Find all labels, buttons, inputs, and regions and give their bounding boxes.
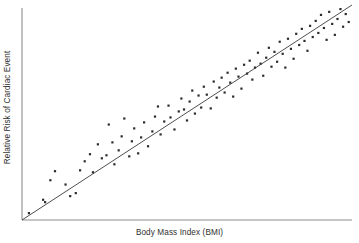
data-point bbox=[97, 143, 99, 145]
data-point bbox=[328, 11, 330, 13]
data-point bbox=[143, 121, 145, 123]
data-point bbox=[290, 48, 292, 50]
data-point bbox=[342, 26, 344, 28]
data-point bbox=[169, 116, 171, 118]
scatter-plot-figure: Relative Risk of Cardiac Event Body Mass… bbox=[0, 0, 359, 243]
data-point bbox=[206, 94, 208, 96]
data-point bbox=[54, 170, 56, 172]
data-point bbox=[331, 23, 333, 25]
data-point bbox=[89, 153, 91, 155]
data-point bbox=[243, 64, 245, 66]
data-point bbox=[173, 128, 175, 130]
data-point bbox=[265, 57, 267, 59]
data-point bbox=[301, 28, 303, 30]
data-point bbox=[317, 32, 319, 34]
data-point bbox=[224, 91, 226, 93]
data-point bbox=[309, 25, 311, 27]
data-point bbox=[197, 94, 199, 96]
trend-line bbox=[22, 5, 352, 220]
data-point bbox=[312, 36, 314, 38]
data-point bbox=[218, 86, 220, 88]
data-point bbox=[210, 107, 212, 109]
data-point bbox=[303, 40, 305, 42]
data-point bbox=[167, 105, 169, 107]
data-point bbox=[249, 60, 251, 62]
data-point bbox=[160, 133, 162, 135]
data-point bbox=[203, 86, 205, 88]
data-point bbox=[232, 95, 234, 97]
data-point bbox=[42, 199, 44, 201]
plot-canvas bbox=[0, 0, 359, 243]
data-point bbox=[128, 155, 130, 157]
data-point bbox=[276, 61, 278, 63]
data-point bbox=[49, 179, 51, 181]
data-point bbox=[154, 115, 156, 117]
data-point bbox=[315, 20, 317, 22]
data-point bbox=[121, 135, 123, 137]
data-point bbox=[64, 183, 66, 185]
data-point bbox=[273, 51, 275, 53]
data-point bbox=[334, 34, 336, 36]
data-point bbox=[133, 127, 135, 129]
data-point bbox=[262, 75, 264, 77]
data-point bbox=[306, 50, 308, 52]
data-point bbox=[113, 163, 115, 165]
data-point bbox=[237, 76, 239, 78]
data-point bbox=[183, 108, 185, 110]
data-point bbox=[320, 14, 322, 16]
x-axis-label: Body Mass Index (BMI) bbox=[0, 228, 359, 237]
data-point bbox=[163, 120, 165, 122]
data-point bbox=[180, 97, 182, 99]
data-point bbox=[251, 79, 253, 81]
data-point bbox=[235, 68, 237, 70]
data-point bbox=[178, 110, 180, 112]
data-point bbox=[137, 152, 139, 154]
data-point bbox=[270, 66, 272, 68]
data-point bbox=[151, 130, 153, 132]
data-point bbox=[111, 141, 113, 143]
data-point bbox=[295, 33, 297, 35]
data-point bbox=[194, 112, 196, 114]
data-point bbox=[221, 77, 223, 79]
data-point bbox=[84, 160, 86, 162]
data-point bbox=[200, 106, 202, 108]
data-point bbox=[79, 169, 81, 171]
data-point bbox=[123, 117, 125, 119]
data-point bbox=[69, 195, 71, 197]
data-point bbox=[140, 136, 142, 138]
data-point bbox=[157, 105, 159, 107]
data-point bbox=[189, 100, 191, 102]
data-point bbox=[108, 123, 110, 125]
data-point bbox=[268, 47, 270, 49]
data-point bbox=[216, 97, 218, 99]
data-point bbox=[284, 66, 286, 68]
data-point bbox=[287, 38, 289, 40]
data-point bbox=[28, 212, 30, 214]
data-point bbox=[75, 192, 77, 194]
data-point bbox=[298, 44, 300, 46]
data-point bbox=[345, 13, 347, 15]
data-point bbox=[131, 140, 133, 142]
data-point bbox=[323, 27, 325, 29]
data-point bbox=[336, 18, 338, 20]
data-point bbox=[44, 201, 46, 203]
data-point bbox=[282, 53, 284, 55]
data-point bbox=[292, 58, 294, 60]
data-point bbox=[147, 145, 149, 147]
data-point bbox=[348, 21, 350, 23]
data-point bbox=[257, 52, 259, 54]
data-point bbox=[105, 154, 107, 156]
data-point bbox=[240, 88, 242, 90]
data-point bbox=[101, 157, 103, 159]
data-point bbox=[186, 119, 188, 121]
data-point bbox=[325, 39, 327, 41]
data-point bbox=[191, 89, 193, 91]
data-point bbox=[226, 72, 228, 74]
data-point bbox=[118, 149, 120, 151]
data-point bbox=[339, 8, 341, 10]
data-point bbox=[279, 41, 281, 43]
data-point bbox=[213, 80, 215, 82]
